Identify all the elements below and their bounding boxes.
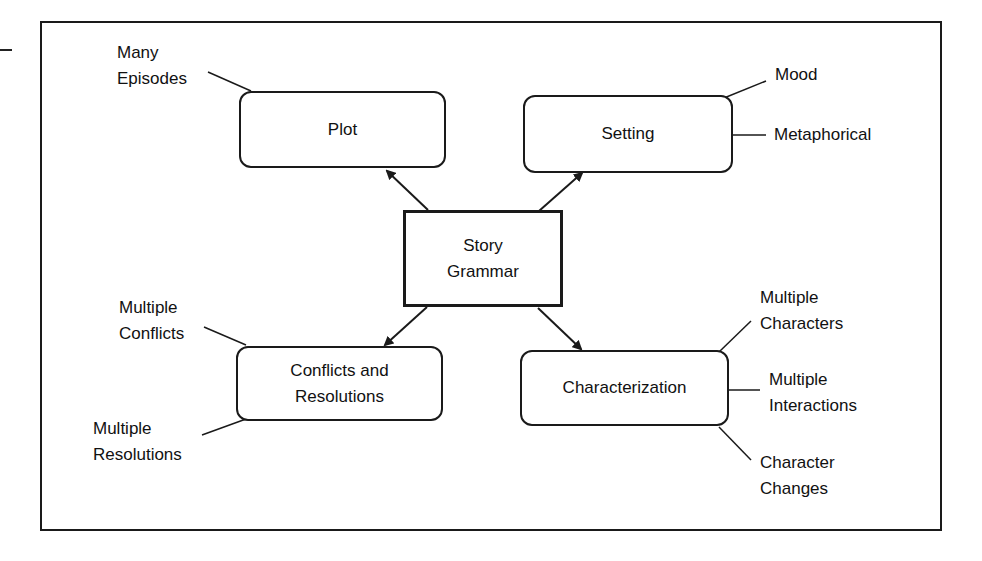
attr-character-changes: Character Changes [760, 450, 835, 502]
plot-label: Plot [328, 117, 357, 143]
attr-many-episodes: Many Episodes [117, 40, 187, 92]
plot-node: Plot [239, 91, 446, 168]
setting-label: Setting [602, 121, 655, 147]
arrow-to-characterization [538, 308, 581, 349]
conflicts-resolutions-node: Conflicts and Resolutions [236, 346, 443, 421]
attr-metaphorical: Metaphorical [774, 122, 871, 148]
connector-multiple-conflicts [204, 327, 246, 345]
attr-multiple-characters: Multiple Characters [760, 285, 843, 337]
arrow-to-conflicts [385, 307, 427, 345]
attr-multiple-resolutions: Multiple Resolutions [93, 416, 182, 468]
connector-many-episodes [208, 72, 251, 91]
attr-multiple-interactions: Multiple Interactions [769, 367, 857, 419]
setting-node: Setting [523, 95, 733, 173]
connector-character-changes [719, 427, 751, 460]
characterization-node: Characterization [520, 350, 729, 426]
conflicts-resolutions-label: Conflicts and Resolutions [290, 358, 388, 410]
connector-multiple-characters [719, 321, 751, 352]
arrow-to-plot [387, 171, 428, 210]
attr-mood: Mood [775, 62, 818, 88]
attr-multiple-conflicts: Multiple Conflicts [119, 295, 184, 347]
arrow-to-setting [539, 173, 582, 211]
story-grammar-label: Story Grammar [447, 233, 519, 285]
characterization-label: Characterization [563, 375, 687, 401]
connector-mood [724, 81, 766, 98]
story-grammar-node: Story Grammar [403, 210, 563, 307]
connector-multiple-resolutions [202, 419, 246, 435]
